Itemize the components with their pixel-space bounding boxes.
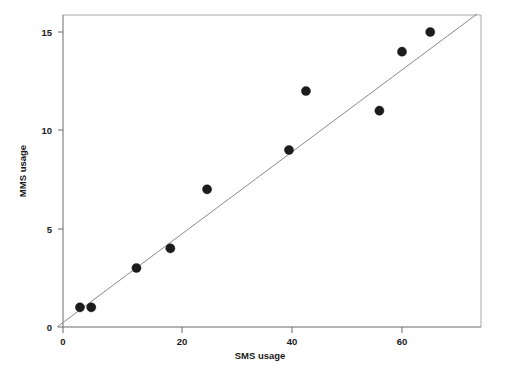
x-tick-label-20: 20	[177, 336, 188, 347]
y-tick-label-15: 15	[41, 27, 52, 38]
x-tick-label-40: 40	[287, 336, 298, 347]
scatter-plot-figure: 15 10 5 0 0 20 40 60 SMS usage MMS usage	[0, 0, 509, 376]
y-axis-title: MMS usage	[17, 145, 28, 197]
data-point	[375, 106, 384, 115]
chart-canvas: 15 10 5 0 0 20 40 60 SMS usage MMS usage	[0, 0, 509, 376]
data-point	[397, 47, 406, 56]
data-point	[75, 303, 84, 312]
x-axis-title: SMS usage	[235, 350, 286, 361]
data-point	[426, 27, 435, 36]
data-point	[87, 303, 96, 312]
x-tick-label-60: 60	[397, 336, 408, 347]
x-tick-label-0: 0	[60, 336, 65, 347]
y-tick-label-5: 5	[47, 224, 53, 235]
y-tick-label-0: 0	[47, 322, 52, 333]
data-point	[301, 86, 310, 95]
data-point	[284, 145, 293, 154]
data-point	[132, 263, 141, 272]
y-tick-label-10: 10	[41, 125, 52, 136]
data-point	[202, 185, 211, 194]
data-point	[166, 244, 175, 253]
chart-background	[0, 0, 509, 376]
